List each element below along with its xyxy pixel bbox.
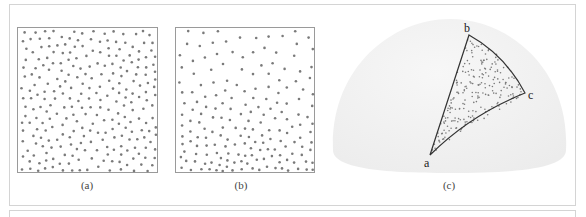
- uniform-points-panel: [17, 27, 158, 173]
- vertex-label-b: b: [464, 21, 470, 35]
- uniform-points-plot: [18, 28, 159, 174]
- graded-points-plot: [176, 28, 316, 174]
- hemisphere-diagram: a b c: [320, 10, 575, 178]
- caption-a: (a): [81, 179, 93, 191]
- next-figure-frame: [9, 210, 576, 217]
- vertex-label-c: c: [528, 88, 533, 102]
- vertex-label-a: a: [424, 156, 430, 170]
- caption-b: (b): [235, 179, 248, 191]
- caption-c: (c): [443, 179, 455, 191]
- graded-points-panel: [175, 27, 315, 173]
